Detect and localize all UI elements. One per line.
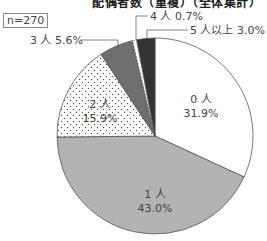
- label-1-name: 1 人: [144, 188, 166, 201]
- leader-line-4: [136, 16, 148, 40]
- label-2-pct: 15.9%: [83, 112, 118, 125]
- label-5: 5 人以上 3.0%: [190, 24, 265, 37]
- leader-line-5: [147, 30, 188, 38]
- label-4: 4 人 0.7%: [150, 10, 203, 23]
- label-0-name: 0 人: [190, 93, 212, 106]
- label-0-pct: 31.9%: [184, 107, 219, 120]
- label-2-name: 2 人: [89, 98, 111, 111]
- label-1-pct: 43.0%: [138, 202, 173, 215]
- label-3: 3 人 5.6%: [30, 34, 83, 47]
- pie-chart: 0 人 31.9% 1 人 43.0% 2 人 15.9% 3 人 5.6% 4…: [0, 0, 267, 241]
